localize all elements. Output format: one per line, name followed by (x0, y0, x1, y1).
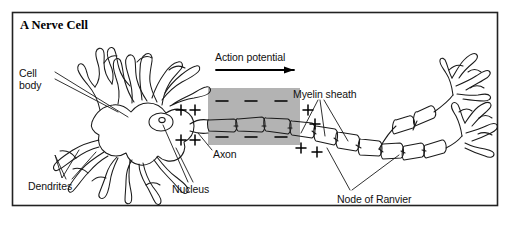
label-node-of-ranvier: Node of Ranvier (337, 194, 411, 206)
label-dendrites: Dendrites (28, 181, 72, 193)
nerve-cell-figure: A Nerve Cell Cell body Dendrites Nucleus… (0, 0, 510, 226)
label-cell-body: Cell body (19, 68, 41, 91)
label-myelin-sheath: Myelin sheath (293, 89, 356, 101)
nerve-cell-illustration (0, 0, 510, 226)
label-axon: Axon (213, 149, 237, 161)
label-action-potential: Action potential (215, 52, 285, 64)
figure-title: A Nerve Cell (20, 18, 88, 33)
label-nucleus: Nucleus (172, 184, 209, 196)
